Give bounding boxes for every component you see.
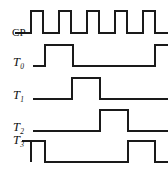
signal-label-t0: T0 <box>13 56 24 69</box>
signal-label-t0-sub: 0 <box>20 62 24 71</box>
waveform-t1 <box>33 78 168 99</box>
signal-label-t1: T1 <box>13 89 24 102</box>
signal-label-cp: CP <box>12 27 26 38</box>
waveform-cp <box>15 11 168 33</box>
signal-label-t0-base: T <box>13 55 20 69</box>
signal-label-t1-base: T <box>13 88 20 102</box>
waveform-t2 <box>33 110 168 131</box>
waveform-t0 <box>33 45 168 66</box>
signal-label-t1-sub: 1 <box>20 95 24 104</box>
signal-label-t2-base: T <box>13 120 20 134</box>
signal-label-t3-sub: 3 <box>20 140 24 149</box>
signal-label-t2: T2 <box>13 121 24 134</box>
waveform-t3 <box>31 141 168 162</box>
timing-diagram-figure: CP T0 T1 T2 T3 <box>0 0 168 173</box>
signal-label-t3: T3 <box>13 134 24 147</box>
signal-label-t3-base: T <box>13 133 20 147</box>
